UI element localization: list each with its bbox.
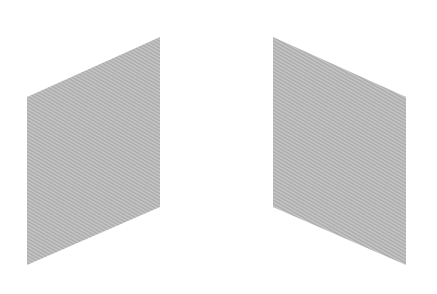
right-parallelogram xyxy=(273,37,406,265)
figure-canvas xyxy=(0,0,437,294)
left-parallelogram xyxy=(27,37,160,265)
parallelogram-diagram xyxy=(0,0,437,294)
